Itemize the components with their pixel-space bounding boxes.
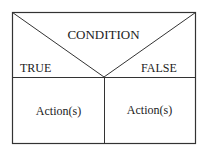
true-action-label: Action(s) [13, 105, 104, 117]
true-label: TRUE [20, 62, 51, 74]
decision-diagram: CONDITION TRUE FALSE Action(s) Action(s) [0, 0, 207, 149]
condition-label: CONDITION [0, 28, 207, 41]
false-action-label: Action(s) [104, 104, 195, 116]
false-label: FALSE [141, 62, 177, 74]
